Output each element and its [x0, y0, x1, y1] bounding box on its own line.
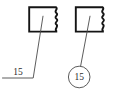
- left-part-outline-break-line-icon: [29, 7, 57, 31]
- left-view-group: 15: [3, 7, 58, 78]
- technical-drawing: 15 15: [0, 0, 122, 94]
- right-callout-label: 15: [74, 72, 84, 82]
- right-view-group: 15: [68, 7, 103, 88]
- left-callout-label: 15: [13, 67, 23, 77]
- drawing-canvas: 15 15: [0, 0, 122, 94]
